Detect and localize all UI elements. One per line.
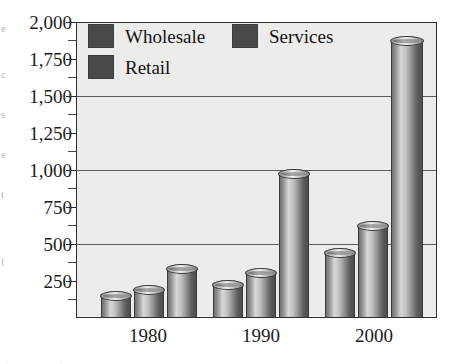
legend-item-wholesale: Wholesale [88, 24, 205, 48]
y-tick-minor [68, 114, 76, 115]
bar-chart-figure: e c s e t l 2,000 1,750 1,500 1,250 1,00… [0, 0, 454, 364]
x-tick-label-1990: 1990 [242, 326, 280, 345]
page-artifact: . [6, 354, 8, 364]
y-tick-minor [68, 77, 76, 78]
margin-glyph: t [1, 188, 4, 200]
legend-swatch-wholesale [88, 24, 114, 48]
y-tick-label-250: 250 [14, 272, 72, 291]
y-tick-minor [68, 225, 76, 226]
y-tick-label-750: 750 [14, 198, 72, 217]
y-tick-major [66, 281, 76, 282]
y-tick-minor [68, 188, 76, 189]
bar-top-ellipse [245, 268, 277, 278]
y-tick-major [66, 207, 76, 208]
gridline-1000 [77, 170, 436, 171]
legend-item-retail: Retail [88, 55, 170, 79]
legend-swatch-retail [88, 55, 114, 79]
bar-1980-services [167, 264, 197, 317]
bar-top-ellipse [324, 248, 356, 258]
y-tick-major [66, 244, 76, 245]
bar-1990-wholesale [213, 280, 243, 317]
bar-top-ellipse [100, 291, 132, 301]
legend-label-retail: Retail [125, 58, 170, 77]
legend-item-services: Services [232, 24, 333, 48]
bar-2000-wholesale [325, 248, 355, 317]
y-tick-label-1000: 1,000 [14, 161, 72, 180]
bar-2000-services [391, 36, 423, 317]
y-tick-label-2000: 2,000 [14, 13, 72, 32]
margin-glyph: c [1, 68, 6, 80]
y-tick-label-1250: 1,250 [14, 124, 72, 143]
margin-glyph: e [1, 148, 6, 160]
x-tick-label-2000: 2000 [355, 326, 393, 345]
bar-body [246, 273, 276, 317]
y-tick-minor [68, 151, 76, 152]
bar-1980-wholesale [101, 291, 131, 317]
bar-body [279, 174, 309, 317]
bar-top-ellipse [390, 36, 424, 46]
bar-body [358, 226, 388, 317]
bar-2000-retail [358, 221, 388, 317]
y-tick-label-500: 500 [14, 235, 72, 254]
y-tick-major [66, 170, 76, 171]
legend-swatch-services [232, 24, 258, 48]
bar-top-ellipse [357, 221, 389, 231]
y-tick-label-1750: 1,750 [14, 50, 72, 69]
bar-body [167, 269, 197, 317]
bar-1980-retail [134, 285, 164, 317]
y-axis: 2,000 1,750 1,500 1,250 1,000 750 500 25… [8, 0, 72, 364]
bar-top-ellipse [278, 169, 310, 179]
bar-top-ellipse [166, 264, 198, 274]
legend-label-wholesale: Wholesale [125, 27, 205, 46]
margin-glyph: e [1, 22, 6, 34]
page-bottom-artifact-strip: . . [0, 352, 454, 364]
y-tick-minor [68, 262, 76, 263]
y-tick-major [66, 22, 76, 23]
bar-1990-retail [246, 268, 276, 317]
bar-body [391, 41, 423, 317]
bar-top-ellipse [133, 285, 165, 295]
page-artifact: . [60, 354, 62, 364]
y-tick-major [66, 96, 76, 97]
gridline-1500 [77, 96, 436, 97]
y-tick-major [66, 133, 76, 134]
x-tick-label-1980: 1980 [129, 326, 167, 345]
y-tick-label-1500: 1,500 [14, 87, 72, 106]
legend-label-services: Services [269, 27, 333, 46]
bar-body [325, 253, 355, 317]
margin-glyph: s [1, 108, 5, 120]
bar-top-ellipse [212, 280, 244, 290]
bar-1990-services [279, 169, 309, 317]
y-tick-minor [68, 40, 76, 41]
margin-glyph: l [1, 256, 4, 268]
y-tick-major [66, 59, 76, 60]
y-tick-minor [68, 299, 76, 300]
